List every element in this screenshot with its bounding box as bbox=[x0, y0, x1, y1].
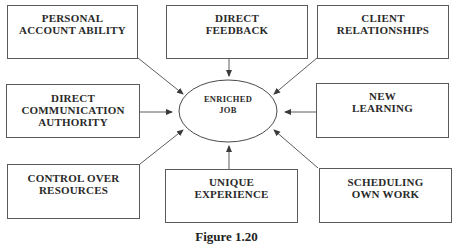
box-personal-accountability: PERSONAL ACCOUNT ABILITY bbox=[7, 5, 138, 59]
box-new-learning: NEW LEARNING bbox=[316, 83, 449, 138]
arrow-bottom-left bbox=[140, 130, 183, 164]
box-label: CLIENT RELATIONSHIPS bbox=[337, 6, 429, 36]
enriched-job-label: ENRICHED JOB bbox=[180, 94, 276, 116]
arrow-top-right bbox=[274, 58, 317, 94]
box-label: DIRECT COMMUNICATION AUTHORITY bbox=[21, 85, 124, 128]
box-label: CONTROL OVER RESOURCES bbox=[28, 165, 120, 196]
figure-caption: Figure 1.20 bbox=[0, 229, 453, 245]
box-direct-communication-authority: DIRECT COMMUNICATION AUTHORITY bbox=[6, 84, 140, 138]
box-client-relationships: CLIENT RELATIONSHIPS bbox=[317, 5, 449, 59]
box-label: SCHEDULING OWN WORK bbox=[348, 169, 424, 200]
box-control-over-resources: CONTROL OVER RESOURCES bbox=[7, 164, 140, 219]
box-label: DIRECT FEEDBACK bbox=[206, 6, 269, 36]
box-label: UNIQUE EXPERIENCE bbox=[194, 170, 268, 200]
box-unique-experience: UNIQUE EXPERIENCE bbox=[165, 169, 298, 223]
box-label: NEW LEARNING bbox=[352, 84, 413, 114]
box-direct-feedback: DIRECT FEEDBACK bbox=[166, 5, 308, 59]
arrow-top-left bbox=[138, 58, 183, 94]
box-label: PERSONAL ACCOUNT ABILITY bbox=[19, 6, 126, 36]
arrow-bottom-right bbox=[274, 130, 318, 168]
box-scheduling-own-work: SCHEDULING OWN WORK bbox=[319, 168, 452, 223]
